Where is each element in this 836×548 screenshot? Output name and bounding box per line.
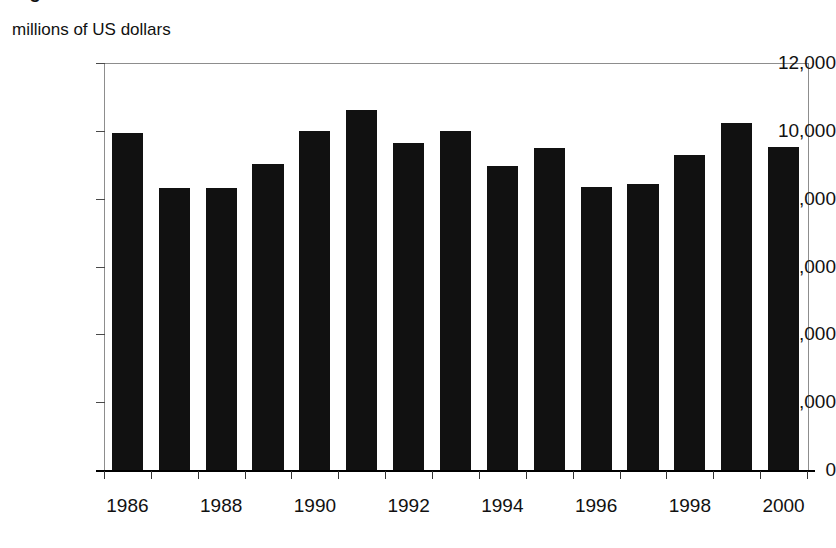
- bar: [487, 166, 518, 470]
- bar: [159, 188, 190, 470]
- x-axis-label: 1994: [481, 495, 523, 517]
- bar: [346, 110, 377, 470]
- x-axis-tick: [807, 471, 808, 479]
- bar: [674, 155, 705, 470]
- x-axis-tick: [104, 471, 105, 479]
- x-axis-tick: [666, 471, 667, 479]
- bar: [252, 164, 283, 470]
- x-axis-tick: [760, 471, 761, 479]
- x-axis-label: 2000: [762, 495, 804, 517]
- x-axis-tick: [620, 471, 621, 479]
- x-axis-tick: [338, 471, 339, 479]
- x-axis-tick: [151, 471, 152, 479]
- x-axis-tick: [245, 471, 246, 479]
- bar: [721, 123, 752, 470]
- x-axis-tick: [385, 471, 386, 479]
- x-axis-tick: [291, 471, 292, 479]
- bar: [627, 184, 658, 470]
- x-axis-tick: [198, 471, 199, 479]
- x-axis-tick: [526, 471, 527, 479]
- x-axis-label: 1996: [575, 495, 617, 517]
- x-axis-label: 1988: [200, 495, 242, 517]
- x-axis-tick: [432, 471, 433, 479]
- bar: [581, 187, 612, 470]
- x-axis-baseline: [96, 470, 815, 472]
- x-axis-label: 1992: [387, 495, 429, 517]
- bar-chart: 02,0004,0006,0008,00010,00012,000 198619…: [0, 0, 836, 548]
- bar: [768, 147, 799, 470]
- bar: [112, 133, 143, 470]
- bar: [206, 188, 237, 470]
- x-axis-tick: [479, 471, 480, 479]
- bar: [440, 131, 471, 470]
- bar: [534, 148, 565, 470]
- bar-series: [104, 63, 807, 470]
- x-axis-tick: [713, 471, 714, 479]
- x-axis-label: 1998: [669, 495, 711, 517]
- bar: [299, 131, 330, 470]
- x-axis-tick: [573, 471, 574, 479]
- x-axis-label: 1990: [294, 495, 336, 517]
- bar: [393, 143, 424, 470]
- x-axis-label: 1986: [106, 495, 148, 517]
